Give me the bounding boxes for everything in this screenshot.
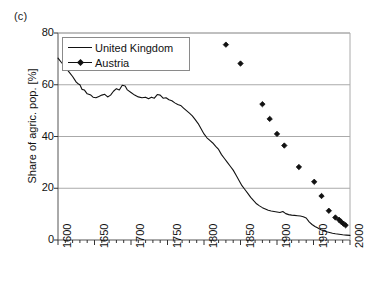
- x-tick-label: 1650: [99, 224, 110, 248]
- legend-item-austria: Austria: [67, 55, 185, 70]
- legend-item-united-kingdom: United Kingdom: [67, 40, 185, 55]
- chart-legend: United Kingdom Austria: [62, 37, 190, 71]
- x-tick-label: 2000: [354, 224, 365, 248]
- x-tick-label: 1600: [62, 224, 73, 248]
- x-tick-label: 1900: [281, 224, 292, 248]
- x-tick-label: 1950: [318, 224, 329, 248]
- figure-panel-c: (c) Share of agric. pop. [%] 020406080 1…: [0, 0, 368, 295]
- x-tick-label: 1700: [135, 224, 146, 248]
- legend-marker-swatch-icon: [67, 57, 93, 69]
- x-tick-label: 1850: [245, 224, 256, 248]
- legend-label-united-kingdom: United Kingdom: [93, 42, 173, 54]
- legend-label-austria: Austria: [93, 57, 129, 69]
- x-tick-label: 1800: [208, 224, 219, 248]
- x-tick-label: 1750: [172, 224, 183, 248]
- legend-line-swatch-icon: [67, 42, 93, 54]
